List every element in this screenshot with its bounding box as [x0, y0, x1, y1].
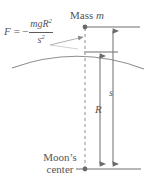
- formula-leader-line-lower: [50, 45, 78, 49]
- moon-surface-arc: [12, 56, 144, 69]
- moon-gravity-diagram: F = − mgR2 s2 Mass m R s Moon’s center: [0, 0, 148, 190]
- moon-center-label-line1: Moon’s: [36, 152, 84, 164]
- mass-label-prefix: Mass: [70, 9, 93, 21]
- formula-leader-line: [50, 37, 83, 45]
- force-formula: F = − mgR2 s2: [4, 18, 53, 46]
- mass-label: Mass m: [70, 10, 104, 22]
- distance-label: s: [109, 88, 113, 99]
- formula-num-exponent: 2: [49, 17, 53, 25]
- formula-equals: =: [14, 26, 20, 38]
- moon-center-label: Moon’s center: [36, 152, 84, 175]
- moon-center-label-line2: center: [36, 164, 84, 176]
- formula-den-exponent: 2: [41, 33, 45, 41]
- mass-point-dot: [83, 25, 88, 30]
- formula-denominator: s2: [36, 33, 45, 45]
- formula-fraction: mgR2 s2: [29, 18, 53, 46]
- radius-label: R: [95, 104, 102, 116]
- formula-sign: −: [22, 26, 28, 38]
- formula-numerator: mgR2: [29, 18, 53, 32]
- formula-lhs: F: [4, 26, 11, 38]
- mass-label-symbol: m: [96, 9, 104, 21]
